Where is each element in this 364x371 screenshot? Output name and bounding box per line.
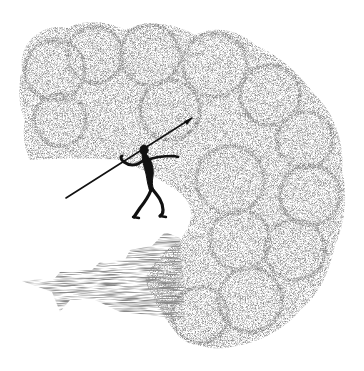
illustration-svg [0,0,364,371]
cliff [22,232,185,320]
illustration-canvas [0,0,364,371]
